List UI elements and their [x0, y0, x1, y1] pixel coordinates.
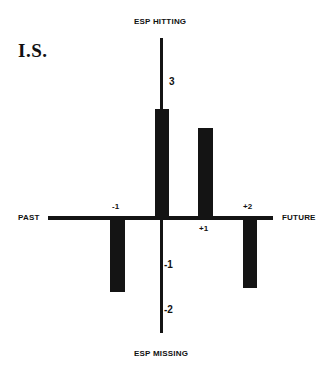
x-tick-plus-1: +1 [199, 224, 208, 233]
y-tick-3: 3 [169, 76, 175, 87]
bar-minus-1 [110, 218, 125, 292]
x-tick-minus-1: -1 [112, 202, 119, 211]
bar-plus-2 [243, 218, 257, 288]
bar-plus-1 [198, 128, 213, 218]
y-axis-top-label: ESP HITTING [134, 17, 186, 26]
y-axis-bottom-label: ESP MISSING [134, 349, 188, 358]
bar-0 [155, 109, 169, 218]
x-axis-right-label: FUTURE [282, 213, 316, 222]
x-axis-left-label: PAST [18, 213, 40, 222]
chart-title: I.S. [18, 40, 47, 62]
x-tick-plus-2: +2 [243, 202, 252, 211]
y-tick-minus-2: -2 [164, 304, 173, 315]
y-tick-minus-1: -1 [164, 259, 173, 270]
